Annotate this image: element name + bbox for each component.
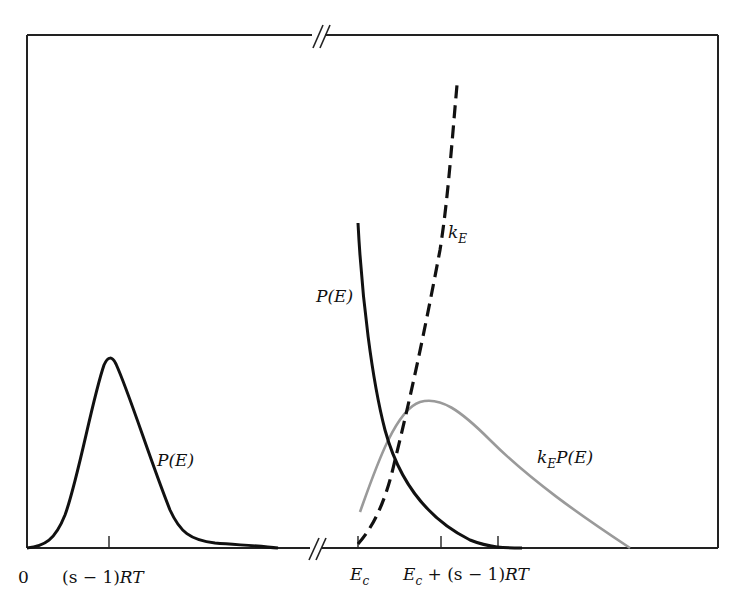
tick-label-zero: 0 (18, 567, 29, 587)
label-pe-high: P(E) (315, 286, 353, 306)
x-ticks (109, 536, 498, 548)
tick-label-ec-plus: Ec + (s − 1)RT (402, 564, 531, 588)
curve-kepe (360, 401, 630, 548)
energy-distribution-chart: 0 (s − 1)RT Ec Ec + (s − 1)RT P(E) P(E) … (0, 0, 737, 599)
tick-label-ec: Ec (349, 564, 369, 588)
plot-frame (27, 35, 718, 548)
label-kepe: kEP(E) (537, 447, 593, 471)
curve-pe-low (27, 358, 278, 548)
axis-break-top (313, 25, 330, 48)
tick-label-s-minus-1-rt: (s − 1)RT (62, 567, 145, 587)
label-ke: kE (448, 222, 467, 246)
label-pe-low: P(E) (156, 450, 194, 470)
